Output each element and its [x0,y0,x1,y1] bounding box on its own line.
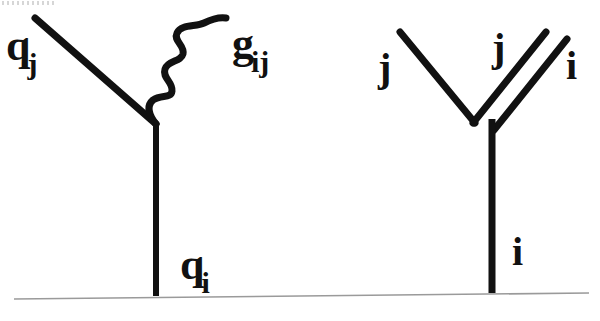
label-outgoing-quark-subscript: i [201,266,209,299]
feynman-diagram-drawing [0,0,600,321]
label-incoming-quark-subscript: j [27,47,37,80]
label-right-diagram-bottom: i [512,232,523,272]
figure-canvas: qj gij qi j j i i [0,0,600,321]
label-right-diagram-middle: j [492,28,505,68]
page-rule [14,293,589,299]
label-outgoing-quark: qi [180,243,213,287]
label-incoming-quark: qj [6,24,40,68]
right-diagram-group [400,32,567,293]
label-gluon: gij [232,22,272,66]
left-arm-line [400,32,475,123]
gluon-wavy-line [149,18,226,124]
label-right-diagram-left-arm: j [378,48,391,88]
incoming-quark-line [35,18,156,124]
label-right-diagram-right-arm: i [566,46,577,86]
label-gluon-subscript: ij [251,45,269,78]
